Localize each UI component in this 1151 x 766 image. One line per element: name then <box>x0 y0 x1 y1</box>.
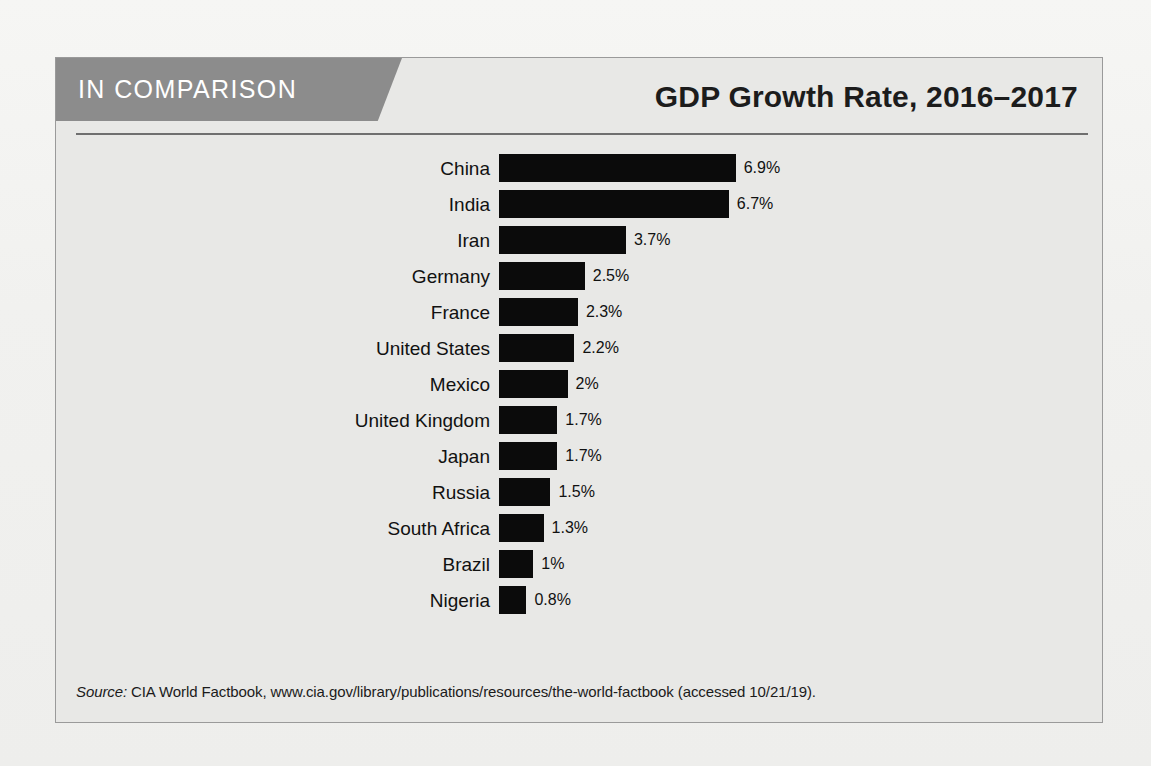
bar-value-label: 1.5% <box>558 484 594 500</box>
bar <box>499 478 550 506</box>
bar-category-label: India <box>56 195 499 214</box>
bar-track: 1.5% <box>499 478 1102 506</box>
bar-category-label: Iran <box>56 231 499 250</box>
bar-value-label: 2.3% <box>586 304 622 320</box>
bar <box>499 370 568 398</box>
bar-track: 0.8% <box>499 586 1102 614</box>
bar-row: France2.3% <box>56 298 1102 326</box>
bar <box>499 334 574 362</box>
bar-row: Brazil1% <box>56 550 1102 578</box>
bar-category-label: United Kingdom <box>56 411 499 430</box>
bar-value-label: 1% <box>541 556 564 572</box>
bar <box>499 514 544 542</box>
bar-category-label: Nigeria <box>56 591 499 610</box>
bar-category-label: Mexico <box>56 375 499 394</box>
bar <box>499 262 585 290</box>
bar-category-label: South Africa <box>56 519 499 538</box>
bar-track: 1.3% <box>499 514 1102 542</box>
bar-track: 3.7% <box>499 226 1102 254</box>
bar-chart-plot: China6.9%India6.7%Iran3.7%Germany2.5%Fra… <box>56 154 1102 722</box>
bar-value-label: 3.7% <box>634 232 670 248</box>
bar <box>499 550 533 578</box>
bar-track: 1.7% <box>499 442 1102 470</box>
bar <box>499 154 736 182</box>
bar-value-label: 1.3% <box>552 520 588 536</box>
bar-track: 1% <box>499 550 1102 578</box>
bar-row: United Kingdom1.7% <box>56 406 1102 434</box>
bar-value-label: 6.9% <box>744 160 780 176</box>
banner-label: IN COMPARISON <box>56 75 297 104</box>
bar <box>499 190 729 218</box>
bar-value-label: 0.8% <box>534 592 570 608</box>
in-comparison-banner: IN COMPARISON <box>56 58 402 121</box>
source-label: Source: <box>76 683 127 700</box>
chart-title: GDP Growth Rate, 2016–2017 <box>655 80 1078 114</box>
bar-value-label: 6.7% <box>737 196 773 212</box>
bar-track: 6.7% <box>499 190 1102 218</box>
bar-row: China6.9% <box>56 154 1102 182</box>
bar-track: 2% <box>499 370 1102 398</box>
bar <box>499 226 626 254</box>
source-note: Source: CIA World Factbook, www.cia.gov/… <box>76 683 816 700</box>
bar <box>499 586 526 614</box>
bar-value-label: 2% <box>576 376 599 392</box>
bar-category-label: Russia <box>56 483 499 502</box>
bar-row: United States2.2% <box>56 334 1102 362</box>
bar-value-label: 2.2% <box>582 340 618 356</box>
bar-row: Mexico2% <box>56 370 1102 398</box>
bar-row: India6.7% <box>56 190 1102 218</box>
bar-value-label: 1.7% <box>565 448 601 464</box>
title-divider <box>76 133 1088 135</box>
bar-track: 2.2% <box>499 334 1102 362</box>
figure-container: IN COMPARISON GDP Growth Rate, 2016–2017… <box>55 57 1103 723</box>
bar-track: 2.3% <box>499 298 1102 326</box>
bar-category-label: France <box>56 303 499 322</box>
bar <box>499 406 557 434</box>
bar <box>499 298 578 326</box>
bar-row: Nigeria0.8% <box>56 586 1102 614</box>
bar-row: South Africa1.3% <box>56 514 1102 542</box>
bar-category-label: Brazil <box>56 555 499 574</box>
source-citation: CIA World Factbook, www.cia.gov/library/… <box>127 683 816 700</box>
bar-row: Germany2.5% <box>56 262 1102 290</box>
bar-value-label: 1.7% <box>565 412 601 428</box>
bar-category-label: United States <box>56 339 499 358</box>
bar-category-label: Germany <box>56 267 499 286</box>
bar-category-label: Japan <box>56 447 499 466</box>
bar-row: Japan1.7% <box>56 442 1102 470</box>
bar-row: Iran3.7% <box>56 226 1102 254</box>
bar-category-label: China <box>56 159 499 178</box>
bar-track: 6.9% <box>499 154 1102 182</box>
bar-track: 2.5% <box>499 262 1102 290</box>
bar <box>499 442 557 470</box>
bar-row: Russia1.5% <box>56 478 1102 506</box>
bar-track: 1.7% <box>499 406 1102 434</box>
bar-value-label: 2.5% <box>593 268 629 284</box>
